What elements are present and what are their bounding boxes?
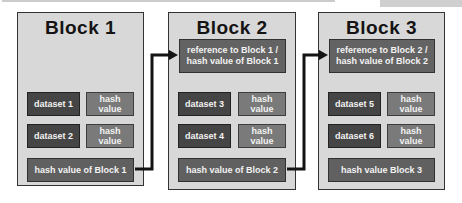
block-3-reference-line-1: reference to Block 2 /: [336, 45, 427, 57]
dataset-4-box: dataset 4: [178, 124, 231, 148]
block-1: Block 1 dataset 1 hash value dataset 2 h…: [17, 12, 144, 186]
dataset-4-hash-value-box: hash value: [238, 124, 286, 148]
block-3: Block 3 reference to Block 2 / hash valu…: [318, 12, 445, 190]
block-2-hash-box: hash value of Block 2: [178, 158, 286, 182]
block-1-title: Block 1: [18, 17, 143, 39]
scan-artifact-band: [380, 0, 462, 7]
block-3-row-2: dataset 6 hash value: [319, 124, 444, 148]
block-3-title: Block 3: [319, 17, 444, 39]
dataset-1-hash-value-box: hash value: [86, 92, 134, 116]
block-3-reference-box: reference to Block 2 / hash value of Blo…: [329, 39, 435, 73]
block-1-row-1: dataset 1 hash value: [18, 92, 143, 116]
block-2-title: Block 2: [169, 17, 295, 39]
dataset-3-hash-value-box: hash value: [238, 92, 286, 116]
block-2-reference-box: reference to Block 1 / hash value of Blo…: [179, 39, 286, 73]
block-3-reference-line-2: hash value of Block 2: [336, 56, 428, 68]
dataset-6-hash-value-box: hash value: [387, 124, 435, 148]
scan-artifact-line: [2, 0, 335, 2]
dataset-2-box: dataset 2: [27, 124, 80, 148]
block-2-row-1: dataset 3 hash value: [169, 92, 295, 116]
block-2-reference-line-2: hash value of Block 1: [186, 56, 278, 68]
dataset-3-box: dataset 3: [178, 92, 231, 116]
block-3-hash-box: hash value Block 3: [328, 158, 435, 182]
dataset-5-box: dataset 5: [328, 92, 381, 116]
dataset-2-hash-value-box: hash value: [86, 124, 134, 148]
block-2-row-2: dataset 4 hash value: [169, 124, 295, 148]
dataset-5-hash-value-box: hash value: [387, 92, 435, 116]
block-2: Block 2 reference to Block 1 / hash valu…: [168, 12, 296, 190]
block-1-hash-box: hash value of Block 1: [27, 158, 134, 182]
block-1-row-2: dataset 2 hash value: [18, 124, 143, 148]
block-2-reference-line-1: reference to Block 1 /: [187, 45, 278, 57]
block-3-row-1: dataset 5 hash value: [319, 92, 444, 116]
blockchain-diagram: Block 1 dataset 1 hash value dataset 2 h…: [0, 0, 462, 203]
dataset-1-box: dataset 1: [27, 92, 80, 116]
dataset-6-box: dataset 6: [328, 124, 381, 148]
